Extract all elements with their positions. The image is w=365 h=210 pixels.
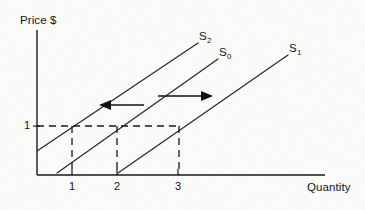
leftward-shift-arrow (99, 100, 144, 110)
curve-label-S1: S1 (289, 43, 301, 55)
y-axis-title: Price $ (20, 15, 57, 27)
x-tick-label-3: 3 (175, 181, 181, 192)
x-axis-title: Quantity (307, 182, 351, 194)
y-tick-label-1: 1 (24, 120, 30, 131)
rightward-shift-arrow-head (201, 91, 213, 101)
chart-plot-area (0, 0, 365, 210)
rightward-shift-arrow (158, 91, 213, 101)
supply-shift-diagram: Price $ Quantity 1 1 2 3 S2 S0 S1 (0, 0, 365, 210)
curve-label-S2: S2 (199, 31, 211, 43)
curve-label-S1-subscript: 1 (297, 48, 301, 57)
curve-label-S0: S0 (219, 47, 231, 59)
supply-curve-S0 (57, 59, 218, 173)
x-tick-label-1: 1 (69, 181, 75, 192)
curve-label-S1-base: S (289, 42, 297, 54)
curve-label-S2-base: S (199, 30, 207, 42)
curve-label-S0-base: S (219, 46, 227, 58)
curve-label-S2-subscript: 2 (207, 36, 211, 45)
x-tick-label-2: 2 (114, 181, 120, 192)
supply-curve-S1 (118, 55, 288, 173)
curve-label-S0-subscript: 0 (227, 52, 231, 61)
